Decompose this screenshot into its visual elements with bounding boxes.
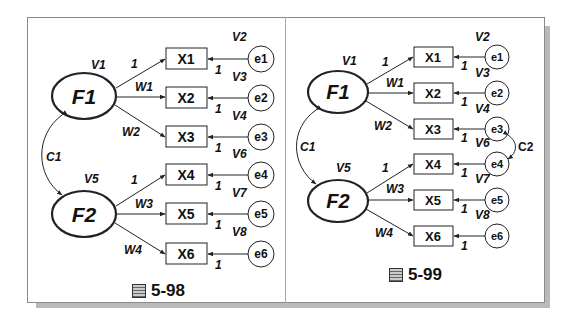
indicator-x6-label: X6: [177, 246, 194, 262]
error-e1-label: e1: [254, 52, 268, 66]
loading-label-x5: W3: [135, 197, 153, 211]
error-path-label-e1: 1: [215, 63, 222, 77]
factor-f1-label: F1: [326, 81, 349, 103]
error-e4-label: e4: [254, 168, 268, 182]
error-e5-label: e5: [254, 207, 268, 221]
error-path-label-e5: 1: [461, 202, 468, 216]
error-e3-label: e3: [254, 130, 268, 144]
error-variance-label-e4: V6: [232, 147, 247, 161]
factor-f2-label: F2: [72, 203, 97, 226]
indicator-x6-label: X6: [425, 229, 441, 244]
figure-caption-5-99: 5-99: [389, 265, 442, 285]
loading-label-x1: 1: [382, 55, 389, 69]
error-variance-label-e3: V4: [475, 102, 490, 116]
indicator-x3-label: X3: [425, 122, 441, 137]
error-e6-label: e6: [491, 230, 503, 242]
loading-label-x6: W4: [124, 243, 142, 257]
variance-v1-label: V1: [342, 54, 357, 68]
covariance-c1-label: C1: [300, 140, 316, 154]
variance-v5-label: V5: [84, 172, 99, 186]
error-variance-label-e6: V8: [232, 225, 247, 239]
loading-label-x3: W2: [374, 119, 392, 133]
indicator-x4-label: X4: [425, 157, 442, 172]
error-e3-label: e3: [491, 123, 503, 135]
indicator-x4-label: X4: [177, 167, 194, 183]
error-path-label-e1: 1: [461, 59, 468, 73]
error-variance-label-e2: V3: [475, 66, 490, 80]
indicator-x5-label: X5: [177, 206, 194, 222]
variance-v5-label: V5: [336, 161, 351, 175]
error-e1-label: e1: [491, 51, 503, 63]
sem-diagrams: F1 F2 C1 V1 V5 1 W1 W2 1 W3 W4 X1 X2 X3 …: [0, 0, 570, 326]
diagram-5-99: F1 F2 C1 V1 V5 1 W1 W2 1 W3 W4 X1 X2 X3 …: [297, 30, 534, 253]
error-path-label-e4: 1: [461, 166, 468, 180]
figure-icon: [132, 284, 146, 298]
indicator-x2-label: X2: [425, 86, 441, 101]
error-variance-label-e5: V7: [475, 172, 491, 186]
error-path-label-e3: 1: [215, 141, 222, 155]
error-e6-label: e6: [254, 247, 268, 261]
loading-label-x3: W2: [122, 125, 140, 139]
loading-label-x6: W4: [375, 226, 393, 240]
error-e4-label: e4: [491, 158, 504, 170]
error-e2-label: e2: [254, 91, 268, 105]
indicator-x3-label: X3: [177, 129, 194, 145]
error-variance-label-e3: V4: [232, 109, 247, 123]
error-path-label-e2: 1: [215, 102, 222, 116]
error-variance-label-e1: V2: [475, 30, 490, 44]
indicator-x5-label: X5: [425, 193, 441, 208]
error-variance-label-e4: V6: [475, 136, 490, 150]
error-variance-label-e2: V3: [232, 70, 247, 84]
covariance-c2-arrow: [508, 135, 516, 159]
figure-caption-text: 5-98: [151, 281, 185, 301]
error-path-label-e6: 1: [215, 258, 222, 272]
figure-caption-text: 5-99: [408, 265, 442, 285]
error-path-label-e4: 1: [215, 179, 222, 193]
loading-label-x2: W1: [135, 80, 153, 94]
factor-f1-label: F1: [72, 85, 97, 108]
loading-label-x4: 1: [131, 173, 138, 187]
variance-v1-label: V1: [91, 58, 106, 72]
loading-label-x4: 1: [382, 161, 389, 175]
error-e2-label: e2: [491, 87, 503, 99]
indicator-x1-label: X1: [425, 50, 441, 65]
indicator-x1-label: X1: [177, 51, 194, 67]
error-variance-label-e6: V8: [475, 208, 490, 222]
loading-label-x2: W1: [386, 76, 404, 90]
covariance-c2-label: C2: [518, 140, 534, 154]
covariance-c1-label: C1: [46, 150, 62, 164]
error-variance-label-e1: V2: [232, 30, 247, 44]
loading-label-x1: 1: [131, 57, 138, 71]
error-e5-label: e5: [491, 194, 503, 206]
error-path-label-e3: 1: [461, 131, 468, 145]
error-path-label-e2: 1: [461, 95, 468, 109]
error-path-label-e5: 1: [215, 218, 222, 232]
factor-f2-label: F2: [326, 190, 349, 212]
error-variance-label-e5: V7: [232, 186, 248, 200]
diagram-5-98: F1 F2 C1 V1 V5 1 W1 W2 1 W3 W4 X1 X2 X3 …: [42, 30, 274, 272]
indicator-x2-label: X2: [177, 90, 194, 106]
figure-icon: [389, 268, 403, 282]
figure-caption-5-98: 5-98: [132, 281, 185, 301]
loading-label-x5: W3: [386, 182, 404, 196]
error-path-label-e6: 1: [461, 239, 468, 253]
